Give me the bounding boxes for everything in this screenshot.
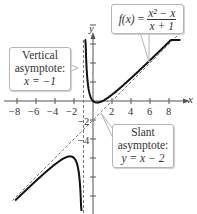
equals-sign: = — [138, 13, 145, 26]
slant-asymptote-callout: Slant asymptote: y = x − 2 — [112, 124, 174, 168]
x-tick-label: −2 — [66, 106, 77, 117]
function-denominator: x + 1 — [147, 20, 176, 32]
x-tick-label: 8 — [166, 106, 171, 117]
vertical-asymptote-callout: Vertical asymptote: x = −1 — [9, 47, 71, 91]
y-tick-label: −2 — [78, 116, 89, 127]
function-numerator: x² − x — [147, 7, 176, 20]
function-curve-right-branch — [85, 40, 181, 103]
callout-line: asymptote: — [113, 139, 173, 152]
x-tick-label: 6 — [147, 106, 152, 117]
x-tick-label: −6 — [28, 106, 39, 117]
x-tick-label: 4 — [128, 106, 133, 117]
callout-line: x = −1 — [10, 75, 70, 88]
x-tick-label: −8 — [9, 106, 20, 117]
function-name: f(x) — [119, 13, 135, 26]
x-tick-label: 2 — [109, 106, 114, 117]
function-fraction: x² − x x + 1 — [147, 7, 176, 32]
y-tick-label: −4 — [78, 135, 89, 146]
callout-line: Vertical — [10, 49, 70, 62]
y-axis-label: y — [89, 22, 94, 34]
x-tick-label: −4 — [47, 106, 58, 117]
callout-line: y = x − 2 — [113, 152, 173, 165]
function-callout-pointer — [140, 32, 149, 62]
function-callout: f(x) = x² − x x + 1 — [111, 4, 184, 34]
callout-line: asymptote: — [10, 62, 70, 75]
callout-line: Slant — [113, 126, 173, 139]
x-axis-label: x — [188, 93, 193, 105]
